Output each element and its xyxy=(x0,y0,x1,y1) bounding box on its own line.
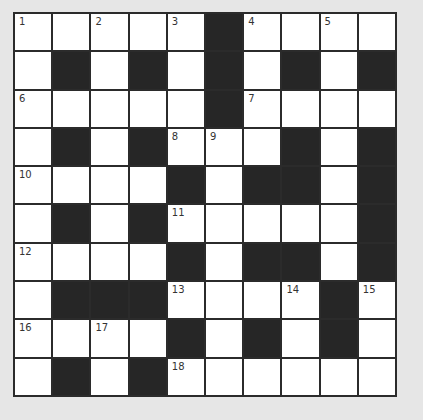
crossword-cell[interactable] xyxy=(282,205,318,241)
crossword-cell[interactable]: 11 xyxy=(168,205,204,241)
crossword-cell[interactable] xyxy=(15,359,51,395)
crossword-cell[interactable] xyxy=(359,91,395,127)
crossword-cell[interactable] xyxy=(282,14,318,50)
clue-number: 15 xyxy=(363,285,376,295)
crossword-cell[interactable] xyxy=(244,205,280,241)
crossword-cell[interactable] xyxy=(206,205,242,241)
crossword-cell[interactable] xyxy=(321,359,357,395)
crossword-cell[interactable] xyxy=(359,14,395,50)
black-square xyxy=(359,52,395,88)
crossword-cell[interactable] xyxy=(130,91,166,127)
crossword-cell[interactable] xyxy=(206,244,242,280)
crossword-cell[interactable]: 3 xyxy=(168,14,204,50)
crossword-cell[interactable]: 18 xyxy=(168,359,204,395)
crossword-cell[interactable] xyxy=(91,359,127,395)
black-square xyxy=(130,129,166,165)
crossword-cell[interactable] xyxy=(15,205,51,241)
crossword-cell[interactable] xyxy=(282,359,318,395)
crossword-cell[interactable] xyxy=(244,282,280,318)
crossword-cell[interactable] xyxy=(206,167,242,203)
crossword-cell[interactable]: 12 xyxy=(15,244,51,280)
crossword-cell[interactable] xyxy=(321,129,357,165)
crossword-cell[interactable]: 1 xyxy=(15,14,51,50)
crossword-cell[interactable] xyxy=(91,167,127,203)
crossword-cell[interactable]: 14 xyxy=(282,282,318,318)
black-square xyxy=(130,359,166,395)
crossword-cell[interactable] xyxy=(168,91,204,127)
crossword-cell[interactable] xyxy=(321,167,357,203)
crossword-cell[interactable] xyxy=(91,91,127,127)
crossword-cell[interactable]: 5 xyxy=(321,14,357,50)
crossword-cell[interactable] xyxy=(91,52,127,88)
crossword-cell[interactable]: 4 xyxy=(244,14,280,50)
black-square xyxy=(244,167,280,203)
crossword-cell[interactable]: 2 xyxy=(91,14,127,50)
clue-number: 2 xyxy=(95,17,101,27)
clue-number: 10 xyxy=(19,170,32,180)
crossword-cell[interactable] xyxy=(15,52,51,88)
black-square xyxy=(321,282,357,318)
crossword-cell[interactable]: 16 xyxy=(15,320,51,356)
clue-number: 4 xyxy=(248,17,254,27)
crossword-cell[interactable] xyxy=(53,244,89,280)
crossword-cell[interactable] xyxy=(321,52,357,88)
crossword-cell[interactable]: 6 xyxy=(15,91,51,127)
black-square xyxy=(168,167,204,203)
clue-number: 6 xyxy=(19,94,25,104)
crossword-cell[interactable] xyxy=(359,320,395,356)
crossword-cell[interactable] xyxy=(321,205,357,241)
crossword-cell[interactable] xyxy=(282,320,318,356)
crossword-cell[interactable] xyxy=(244,129,280,165)
clue-number: 3 xyxy=(172,17,178,27)
crossword-cell[interactable]: 9 xyxy=(206,129,242,165)
crossword-cell[interactable] xyxy=(53,91,89,127)
clue-number: 1 xyxy=(19,17,25,27)
crossword-cell[interactable] xyxy=(321,244,357,280)
crossword-cell[interactable] xyxy=(130,14,166,50)
clue-number: 14 xyxy=(286,285,299,295)
black-square xyxy=(53,52,89,88)
crossword-cell[interactable] xyxy=(206,320,242,356)
crossword-cell[interactable]: 13 xyxy=(168,282,204,318)
black-square xyxy=(130,205,166,241)
crossword-cell[interactable] xyxy=(15,282,51,318)
black-square xyxy=(282,244,318,280)
crossword-cell[interactable] xyxy=(206,359,242,395)
crossword-cell[interactable] xyxy=(53,167,89,203)
crossword-cell[interactable]: 7 xyxy=(244,91,280,127)
black-square xyxy=(206,14,242,50)
crossword-cell[interactable]: 17 xyxy=(91,320,127,356)
black-square xyxy=(282,167,318,203)
crossword-cell[interactable] xyxy=(91,129,127,165)
crossword-cell[interactable] xyxy=(91,205,127,241)
clue-number: 7 xyxy=(248,94,254,104)
crossword-cell[interactable] xyxy=(168,52,204,88)
crossword-cell[interactable]: 10 xyxy=(15,167,51,203)
crossword-cell[interactable] xyxy=(206,282,242,318)
crossword-cell[interactable] xyxy=(130,167,166,203)
black-square xyxy=(91,282,127,318)
black-square xyxy=(359,167,395,203)
clue-number: 16 xyxy=(19,323,32,333)
crossword-cell[interactable] xyxy=(244,52,280,88)
clue-number: 12 xyxy=(19,247,32,257)
crossword-cell[interactable] xyxy=(282,91,318,127)
black-square xyxy=(359,244,395,280)
black-square xyxy=(168,244,204,280)
crossword-cell[interactable] xyxy=(53,14,89,50)
crossword-cell[interactable] xyxy=(53,320,89,356)
crossword-cell[interactable] xyxy=(244,359,280,395)
crossword-cell[interactable] xyxy=(359,359,395,395)
clue-number: 18 xyxy=(172,362,185,372)
clue-number: 5 xyxy=(325,17,331,27)
crossword-cell[interactable]: 8 xyxy=(168,129,204,165)
crossword-cell[interactable] xyxy=(321,91,357,127)
crossword-cell[interactable] xyxy=(130,244,166,280)
clue-number: 17 xyxy=(95,323,108,333)
black-square xyxy=(130,52,166,88)
black-square xyxy=(244,320,280,356)
crossword-cell[interactable] xyxy=(15,129,51,165)
crossword-cell[interactable] xyxy=(91,244,127,280)
crossword-cell[interactable] xyxy=(130,320,166,356)
crossword-cell[interactable]: 15 xyxy=(359,282,395,318)
